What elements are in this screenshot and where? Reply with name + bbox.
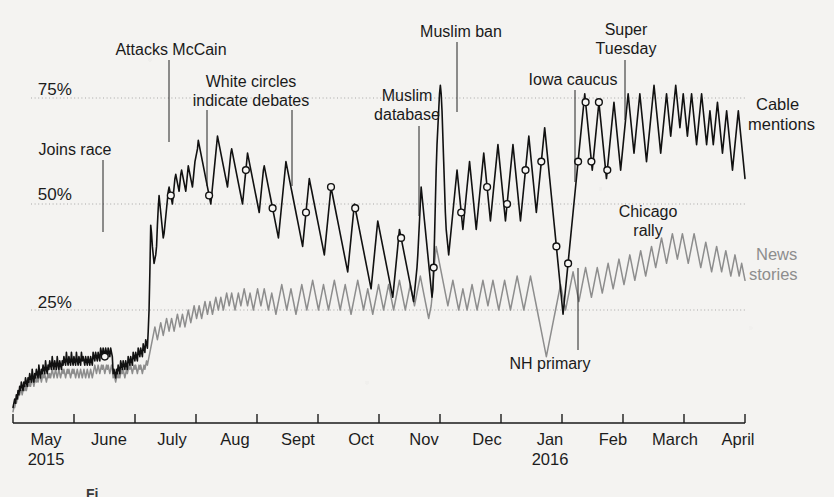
debate-marker [398,235,405,242]
annotation-muslim-database-line2: database [362,105,452,124]
annotation-chicago-rally-line2: rally [596,221,700,240]
debate-marker [565,260,572,267]
x-tick-aug: Aug [203,430,267,449]
debate-marker [484,184,491,191]
debate-marker [582,99,589,106]
annotation-attacks-mccain: Attacks McCain [96,40,246,59]
x-tick-jan-year: 2016 [518,449,582,470]
series-news-stories [13,234,745,412]
x-axis [13,414,745,423]
x-tick-jan: Jan 2016 [518,430,582,470]
y-tick-75: 75% [6,80,72,100]
debate-marker [206,192,213,199]
debate-marker [604,167,611,174]
annotation-iowa-caucus: Iowa caucus [508,70,638,89]
debate-marker [328,184,335,191]
debate-marker [522,167,529,174]
debate-markers [101,99,610,360]
debate-marker [243,167,250,174]
cable-mentions-line [13,85,745,407]
annotation-white-circles-line1: White circles [178,72,324,91]
debate-marker [167,192,174,199]
x-tick-dec: Dec [455,430,519,449]
x-tick-oct: Oct [329,430,393,449]
debate-marker [588,158,595,165]
annotation-white-circles-line2: indicate debates [178,91,324,110]
series-label-cable-line2: mentions [748,114,815,134]
series-label-news-line2: stories [749,264,798,284]
x-tick-may-year: 2015 [14,449,78,470]
annotation-muslim-database-line1: Muslim [362,86,452,105]
x-tick-jan-label: Jan [537,430,564,448]
debate-marker [538,158,545,165]
annotation-joins-race: Joins race [10,140,140,159]
annotation-super-tuesday-line2: Tuesday [566,39,686,58]
x-tick-may-label: May [30,430,61,448]
debate-marker [101,353,108,360]
chart-figure: 75% 50% 25% May 2015 June July Aug Sept … [0,0,834,497]
series-cable-mentions [13,85,745,407]
series-label-news-line1: News [756,244,797,264]
debate-marker [504,201,511,208]
figure-caption: Fi [86,486,98,497]
x-tick-march: March [642,430,708,449]
debate-marker [458,209,465,216]
x-tick-july: July [140,430,204,449]
y-tick-25: 25% [6,293,72,313]
series-label-cable-line1: Cable [756,94,799,114]
x-tick-sept: Sept [266,430,330,449]
annotation-super-tuesday-line1: Super [566,20,686,39]
news-stories-line [13,234,745,412]
x-tick-nov: Nov [392,430,456,449]
x-tick-june: June [77,430,141,449]
y-tick-50: 50% [6,185,72,205]
debate-marker [303,209,310,216]
debate-marker [596,99,603,106]
debate-marker [553,243,560,250]
annotation-nh-primary: NH primary [480,354,620,373]
x-tick-april: April [706,430,770,449]
debate-marker [430,264,437,271]
chart-canvas [0,0,834,497]
annotation-muslim-ban: Muslim ban [390,22,532,41]
debate-marker [269,205,276,212]
x-tick-may: May 2015 [14,430,78,470]
x-tick-feb: Feb [581,430,645,449]
debate-marker [352,205,359,212]
debate-marker [575,158,582,165]
annotation-chicago-rally-line1: Chicago [596,202,700,221]
